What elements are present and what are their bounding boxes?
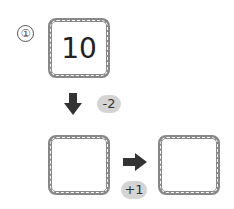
- answer-value-2[interactable]: [162, 139, 216, 191]
- problem-number: ①: [17, 25, 34, 42]
- arrow-down-icon: [64, 93, 82, 115]
- answer-box-2[interactable]: [158, 135, 220, 195]
- operation-badge-minus-2: -2: [97, 95, 121, 113]
- answer-value-1[interactable]: [52, 139, 106, 191]
- start-box: 10: [48, 18, 110, 78]
- answer-box-1[interactable]: [48, 135, 110, 195]
- start-value: 10: [52, 22, 106, 74]
- arrow-right-icon: [123, 153, 147, 171]
- operation-badge-plus-1: +1: [121, 181, 147, 199]
